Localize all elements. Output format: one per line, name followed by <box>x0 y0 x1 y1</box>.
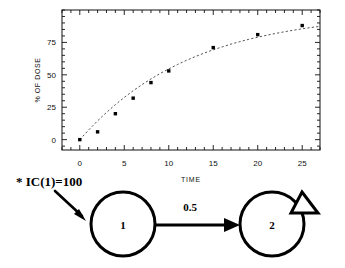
x-axis-label: TIME <box>181 176 201 183</box>
pk-figure-svg: 0510152025 0255075 TIME % OF DOSE * IC(1… <box>0 0 345 268</box>
compartment-2[interactable]: 2 <box>240 192 304 256</box>
y-tick-label: 0 <box>52 136 57 145</box>
data-point <box>96 130 99 133</box>
transfer-rate-label: 0.5 <box>183 201 197 213</box>
y-tick-labels: 0255075 <box>47 38 56 144</box>
x-tick-label: 10 <box>164 159 173 168</box>
data-point <box>167 69 170 72</box>
compartment-model-diagram: * IC(1)=100 1 0.5 2 <box>16 174 318 256</box>
y-tick-label: 25 <box>47 103 56 112</box>
data-point <box>114 112 117 115</box>
figure-container: 0510152025 0255075 TIME % OF DOSE * IC(1… <box>0 0 345 268</box>
x-tick-label: 5 <box>122 159 127 168</box>
transfer-arrow-1-to-2 <box>155 218 240 232</box>
elimination-triangle <box>291 192 318 213</box>
y-tick-label: 75 <box>47 38 56 47</box>
compartment-2-label: 2 <box>269 219 275 231</box>
data-point <box>78 138 81 141</box>
data-point <box>131 96 134 99</box>
y-tick-label: 50 <box>47 71 56 80</box>
data-point <box>256 33 259 36</box>
axis-ticks <box>62 10 320 150</box>
x-tick-label: 0 <box>78 159 83 168</box>
plot-panel: 0510152025 0255075 TIME % OF DOSE <box>34 10 320 183</box>
y-axis-label: % OF DOSE <box>34 57 41 102</box>
data-point <box>301 24 304 27</box>
x-tick-label: 15 <box>209 159 218 168</box>
compartment-1-label: 1 <box>120 219 126 231</box>
x-tick-labels: 0510152025 <box>78 159 308 168</box>
x-tick-label: 20 <box>253 159 262 168</box>
plot-frame <box>62 10 320 150</box>
fitted-curve <box>80 26 320 139</box>
x-tick-label: 25 <box>298 159 307 168</box>
dose-input-arrow <box>55 191 86 221</box>
data-point <box>149 81 152 84</box>
data-point <box>212 46 215 49</box>
data-point-markers <box>78 24 304 141</box>
initial-condition-label: * IC(1)=100 <box>16 174 82 189</box>
compartment-1[interactable]: 1 <box>91 192 155 256</box>
